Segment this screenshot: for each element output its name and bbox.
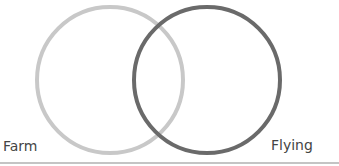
flying-animals-label-line1: Flying (271, 137, 326, 154)
flying-animals-circle (134, 7, 280, 153)
flying-animals-label: Flying animals (271, 120, 326, 166)
farm-animals-label: Farm animals (3, 121, 58, 166)
farm-animals-label-line1: Farm (3, 138, 58, 155)
bottom-divider (0, 162, 339, 164)
farm-animals-circle (37, 7, 183, 153)
